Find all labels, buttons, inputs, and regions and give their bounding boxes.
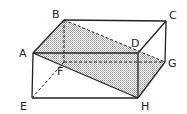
label-C: C [169, 9, 177, 22]
label-G: G [168, 57, 177, 70]
label-H: H [141, 100, 149, 113]
label-A: A [19, 47, 27, 60]
edge-CG [165, 21, 166, 62]
label-B: B [52, 8, 60, 21]
label-E: E [20, 100, 27, 113]
edge-CD [138, 21, 166, 53]
label-F: F [57, 65, 63, 78]
cuboid-diagram: A B C D E F G H [0, 0, 187, 114]
edge-AE [32, 53, 33, 98]
label-D: D [131, 37, 139, 50]
edge-BC [64, 20, 166, 21]
